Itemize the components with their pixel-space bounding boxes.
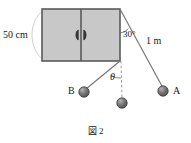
figure-caption-symbol: 図 xyxy=(88,126,97,136)
ball-b-label: B xyxy=(68,86,75,96)
door-handle-right-icon xyxy=(84,30,86,40)
figure-container: 50 cm 30° 1 m θ B A 図 2 xyxy=(0,0,191,143)
figure-caption: 図 2 xyxy=(0,124,191,137)
angle-30-label: 30° xyxy=(123,30,136,39)
string-length-label: 1 m xyxy=(146,36,161,46)
ball-a xyxy=(158,86,168,96)
door-handle-left-icon xyxy=(76,30,78,40)
figure-diagram xyxy=(0,0,191,143)
door-width-label: 50 cm xyxy=(3,30,28,40)
ball-a-label: A xyxy=(173,86,180,96)
vertical-reference-dashed-line xyxy=(121,61,122,99)
string-to-ball-a xyxy=(120,9,163,88)
angle-theta-label: θ xyxy=(110,72,115,82)
ball-rest-position xyxy=(117,98,127,108)
ball-b xyxy=(79,87,89,97)
figure-caption-number: 2 xyxy=(99,126,104,136)
